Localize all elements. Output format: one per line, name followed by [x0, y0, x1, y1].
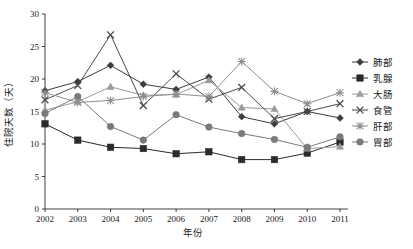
series-line-食管	[45, 35, 340, 119]
data-point-star	[172, 90, 180, 98]
series-line-乳腺	[45, 124, 340, 160]
data-point-triangle	[107, 83, 114, 89]
x-tick-label-2003: 2003	[69, 214, 88, 224]
data-point-diamond	[140, 81, 147, 88]
series-line-胃部	[45, 97, 340, 148]
data-point-square	[42, 121, 48, 127]
data-point-star	[139, 93, 147, 101]
y-tick-label-30: 30	[30, 9, 40, 19]
data-point-circle	[42, 110, 49, 117]
x-tick-label-2008: 2008	[233, 214, 252, 224]
chart-canvas: 0510152025302002200320042005200620072008…	[0, 0, 413, 249]
x-tick-label-2009: 2009	[265, 214, 284, 224]
data-point-circle	[107, 123, 114, 130]
x-tick-label-2007: 2007	[200, 214, 219, 224]
legend-label-胃部: 胃部	[373, 137, 393, 148]
data-point-square	[173, 151, 179, 157]
y-axis-title: 住院天数（天）	[3, 77, 14, 147]
data-point-star	[303, 100, 311, 108]
data-point-cross	[140, 102, 147, 109]
data-point-star	[270, 87, 278, 95]
data-point-circle	[140, 137, 147, 144]
data-point-circle	[238, 130, 245, 137]
legend-label-大肠: 大肠	[373, 89, 393, 100]
legend-label-食管: 食管	[373, 105, 393, 116]
y-tick-label-25: 25	[30, 42, 40, 52]
legend-label-肝部: 肝部	[373, 121, 393, 132]
data-point-cross	[173, 70, 180, 77]
y-tick-label-20: 20	[30, 74, 40, 84]
data-point-star	[205, 93, 213, 101]
y-tick-label-5: 5	[35, 172, 40, 182]
data-point-circle	[173, 111, 180, 118]
data-point-circle	[304, 144, 311, 151]
x-tick-label-2005: 2005	[134, 214, 153, 224]
legend-label-乳腺: 乳腺	[373, 73, 393, 84]
data-point-diamond	[107, 62, 114, 69]
x-tick-label-2006: 2006	[167, 214, 186, 224]
x-tick-label-2011: 2011	[331, 214, 349, 224]
x-tick-label-2004: 2004	[102, 214, 121, 224]
data-point-square	[140, 145, 146, 151]
series-line-肺部	[45, 65, 340, 124]
data-point-square	[238, 156, 244, 162]
data-point-circle	[206, 124, 213, 131]
x-axis-title: 年份	[183, 227, 203, 238]
data-point-cross	[238, 84, 245, 91]
data-point-circle	[357, 139, 364, 146]
data-point-star	[356, 122, 364, 130]
data-point-square	[271, 156, 277, 162]
data-point-cross	[337, 100, 344, 107]
data-point-star	[336, 89, 344, 97]
x-tick-label-2002: 2002	[36, 214, 54, 224]
hospital-stay-line-chart: 0510152025302002200320042005200620072008…	[0, 0, 413, 249]
y-tick-label-10: 10	[30, 139, 40, 149]
data-point-square	[357, 75, 363, 81]
data-point-cross	[107, 31, 114, 38]
data-point-circle	[74, 93, 81, 100]
data-point-circle	[271, 136, 278, 143]
legend-label-肺部: 肺部	[373, 57, 393, 68]
data-point-square	[75, 137, 81, 143]
data-point-star	[41, 89, 49, 97]
data-point-square	[107, 144, 113, 150]
y-tick-label-15: 15	[30, 107, 40, 117]
data-point-square	[206, 149, 212, 155]
y-tick-label-0: 0	[35, 204, 40, 214]
data-point-diamond	[357, 59, 364, 66]
data-point-circle	[337, 134, 344, 141]
data-point-star	[107, 96, 115, 104]
x-tick-label-2010: 2010	[298, 214, 317, 224]
data-point-diamond	[337, 115, 344, 122]
data-point-star	[238, 57, 246, 65]
